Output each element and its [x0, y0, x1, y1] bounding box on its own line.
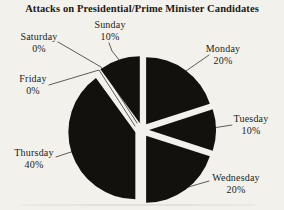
pie-label-friday-name: Friday — [0, 73, 66, 85]
pie-label-saturday-name: Saturday — [4, 31, 74, 43]
pie-label-friday-pct: 0% — [0, 85, 66, 97]
pie-label-thursday-name: Thursday — [0, 147, 68, 159]
pie-label-wednesday-name: Wednesday — [201, 172, 271, 184]
pie-label-monday-pct: 20% — [188, 55, 258, 67]
pie-label-friday: Friday 0% — [0, 73, 66, 96]
pie-label-saturday: Saturday 0% — [4, 31, 74, 54]
chart-figure: Attacks on Presidential/Prime Minister C… — [0, 0, 284, 210]
pie-label-sunday-name: Sunday — [75, 19, 145, 31]
pie-label-monday: Monday 20% — [188, 43, 258, 66]
pie-label-thursday-pct: 40% — [0, 159, 68, 171]
pie-label-saturday-pct: 0% — [4, 43, 74, 55]
pie-label-tuesday-name: Tuesday — [216, 113, 284, 125]
pie-label-tuesday-pct: 10% — [216, 125, 284, 137]
leader-line-sunday — [109, 43, 120, 61]
pie-label-thursday: Thursday 40% — [0, 147, 68, 170]
pie-label-monday-name: Monday — [188, 43, 258, 55]
pie-slices — [68, 56, 216, 202]
pie-label-sunday: Sunday 10% — [75, 19, 145, 42]
pie-label-wednesday: Wednesday 20% — [201, 172, 271, 195]
pie-label-sunday-pct: 10% — [75, 31, 145, 43]
pie-label-tuesday: Tuesday 10% — [216, 113, 284, 136]
pie-label-wednesday-pct: 20% — [201, 184, 271, 196]
scan-artifact — [18, 204, 258, 206]
